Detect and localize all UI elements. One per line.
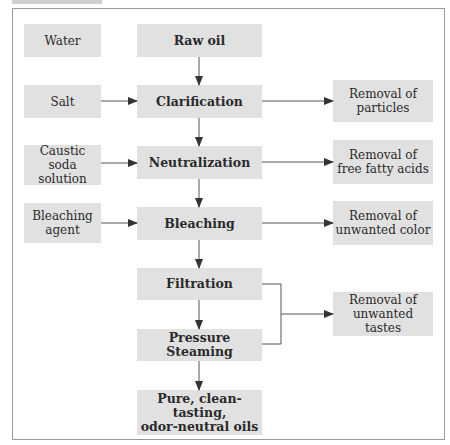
connector-arrows (0, 0, 450, 445)
